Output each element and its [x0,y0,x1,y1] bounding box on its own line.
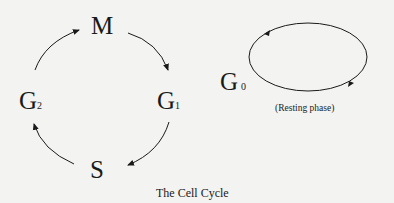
diagram-title: The Cell Cycle [156,187,229,199]
phase-m-label: M [91,13,113,38]
phase-g2-label: G2 [19,88,42,113]
resting-phase-caption: (Resting phase) [275,104,334,114]
arrow-g1-to-s [128,122,169,165]
arrow-m-to-g1 [128,33,168,70]
arrow-g2-to-m [35,30,79,70]
phase-g0-label: G0 [220,69,246,94]
cell-cycle-arrows [0,0,394,203]
arrow-s-to-g2 [34,124,74,164]
phase-s-label: S [90,157,104,182]
phase-g1-label: G1 [157,88,180,113]
